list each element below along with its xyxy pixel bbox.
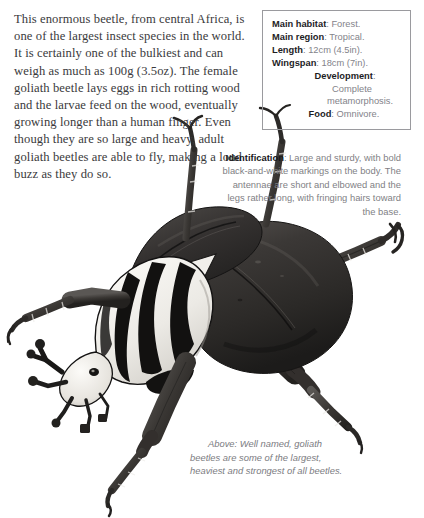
fact-value-wingspan: : 18cm (7in). [316, 58, 368, 68]
fact-value-region: : Tropical. [324, 32, 364, 42]
fact-label-development: Development [315, 71, 373, 81]
fact-value-food: : Omnivore. [331, 109, 379, 119]
fact-value-development-line3: metamorphosis. [327, 96, 393, 106]
beetle-encyclopedia-page: This enormous beetle, from central Afric… [0, 0, 424, 518]
identification-label: Identification [226, 152, 284, 163]
fact-row-development-line3: metamorphosis. [272, 95, 408, 108]
fact-row-length: Length: 12cm (4.5in). [272, 44, 408, 57]
fact-value-length: : 12cm (4.5in). [303, 45, 362, 55]
fact-label-habitat: Main habitat [272, 19, 326, 29]
fact-box: Main habitat: Forest. Main region: Tropi… [262, 10, 411, 130]
fact-value-habitat: : Forest. [326, 19, 360, 29]
fact-row-region: Main region: Tropical. [272, 31, 408, 44]
fact-value-development: : [373, 71, 376, 81]
fact-row-food: Food: Omnivore. [272, 108, 408, 121]
fact-label-length: Length [272, 45, 303, 55]
fact-label-wingspan: Wingspan [272, 58, 316, 68]
identification-block: Identification: Large and sturdy, with b… [213, 151, 401, 218]
illustration-caption: Above: Well named, goliath beetles are s… [190, 437, 350, 478]
fact-label-food: Food [309, 109, 332, 119]
fact-value-development-line2: Complete [332, 84, 372, 94]
fact-list: Main habitat: Forest. Main region: Tropi… [272, 18, 408, 121]
article-body-text: This enormous beetle, from central Afric… [14, 11, 246, 183]
fact-row-development-line2: Complete [272, 83, 408, 96]
fact-label-region: Main region [272, 32, 324, 42]
fact-row-development: Development: [272, 70, 408, 83]
fact-row-wingspan: Wingspan: 18cm (7in). [272, 57, 408, 70]
fact-row-habitat: Main habitat: Forest. [272, 18, 408, 31]
